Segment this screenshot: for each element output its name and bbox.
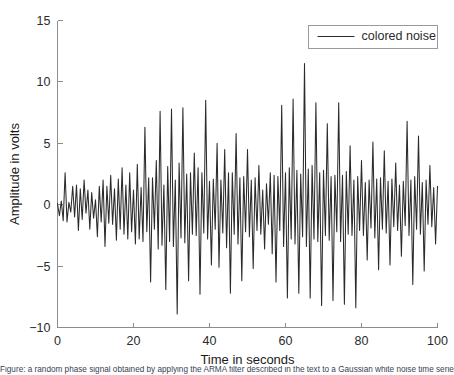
y-tick-label-0: −10 bbox=[29, 321, 50, 335]
y-tick-label-1: −5 bbox=[36, 260, 50, 274]
x-tick-label-5: 100 bbox=[427, 334, 448, 348]
y-tick-label-4: 10 bbox=[37, 75, 51, 89]
x-tick-label-1: 20 bbox=[127, 334, 141, 348]
figure-caption: Figure: a random phase signal obtained b… bbox=[0, 366, 454, 374]
plot-area: −10−5051015020406080100Time in secondsAm… bbox=[7, 14, 448, 367]
x-axis-title: Time in seconds bbox=[200, 352, 295, 367]
y-tick-label-5: 15 bbox=[37, 14, 51, 28]
series-line-0 bbox=[58, 63, 438, 314]
x-tick-label-0: 0 bbox=[54, 334, 61, 348]
x-tick-label-3: 60 bbox=[279, 334, 293, 348]
x-tick-label-2: 40 bbox=[203, 334, 217, 348]
chart-canvas: −10−5051015020406080100Time in secondsAm… bbox=[0, 0, 454, 375]
axis-spine bbox=[58, 21, 438, 328]
figure-caption-strip: Figure: a random phase signal obtained b… bbox=[0, 366, 454, 375]
x-tick-label-4: 80 bbox=[355, 334, 369, 348]
y-axis-title: Amplitude in volts bbox=[7, 123, 22, 225]
y-tick-label-2: 0 bbox=[44, 198, 51, 212]
legend-label-0: colored noise bbox=[362, 29, 436, 43]
y-tick-label-3: 5 bbox=[44, 137, 51, 151]
figure-container: −10−5051015020406080100Time in secondsAm… bbox=[0, 0, 454, 375]
